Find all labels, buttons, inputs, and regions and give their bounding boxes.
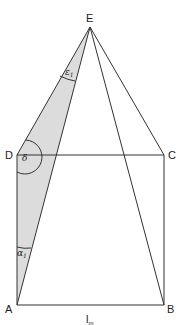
label-point-c: C xyxy=(168,149,176,161)
label-point-d: D xyxy=(5,149,13,161)
label-point-e: E xyxy=(86,12,93,24)
label-point-a: A xyxy=(5,303,13,315)
pyramid-diagram: E D C A B ε1 δ α1 lm xyxy=(0,0,183,325)
edge-eb xyxy=(90,27,164,305)
edge-ec xyxy=(90,27,164,155)
label-bottom-lm: lm xyxy=(86,313,93,325)
label-angle-delta: δ xyxy=(22,153,27,163)
label-point-b: B xyxy=(167,303,174,315)
